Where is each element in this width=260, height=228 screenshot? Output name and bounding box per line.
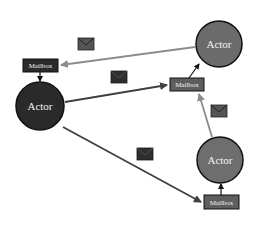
envelope-icon [111,71,127,83]
actor-label: Actor [27,100,52,112]
arrow-middle-mailbox-to-actor [189,64,199,78]
mailbox-middle: Mailbox [170,78,204,91]
mailbox-label: Mailbox [175,81,199,89]
envelope-icon [137,148,153,160]
message-arrows [61,47,212,202]
mailbox-label: Mailbox [210,199,234,207]
arrow-bottomright-actor-to-middle-mailbox [199,94,212,137]
arrow-left-actor-to-middle-mailbox [65,85,167,102]
actor-label: Actor [207,154,232,166]
arrow-left-actor-to-bottom-mailbox [63,127,201,202]
mailbox-label: Mailbox [29,62,53,70]
actor-top-right: Actor [196,21,242,67]
actor-model-diagram: Actor Actor Actor Mailbox Mailbox Mailbo… [0,0,260,228]
envelope-icon [211,105,227,117]
envelope-icon [78,38,94,50]
actor-label: Actor [206,38,231,50]
actor-left: Actor [16,82,64,130]
mailbox-bottom: Mailbox [204,195,239,209]
mailbox-left: Mailbox [23,59,58,72]
actor-bottom-right: Actor [197,137,243,183]
